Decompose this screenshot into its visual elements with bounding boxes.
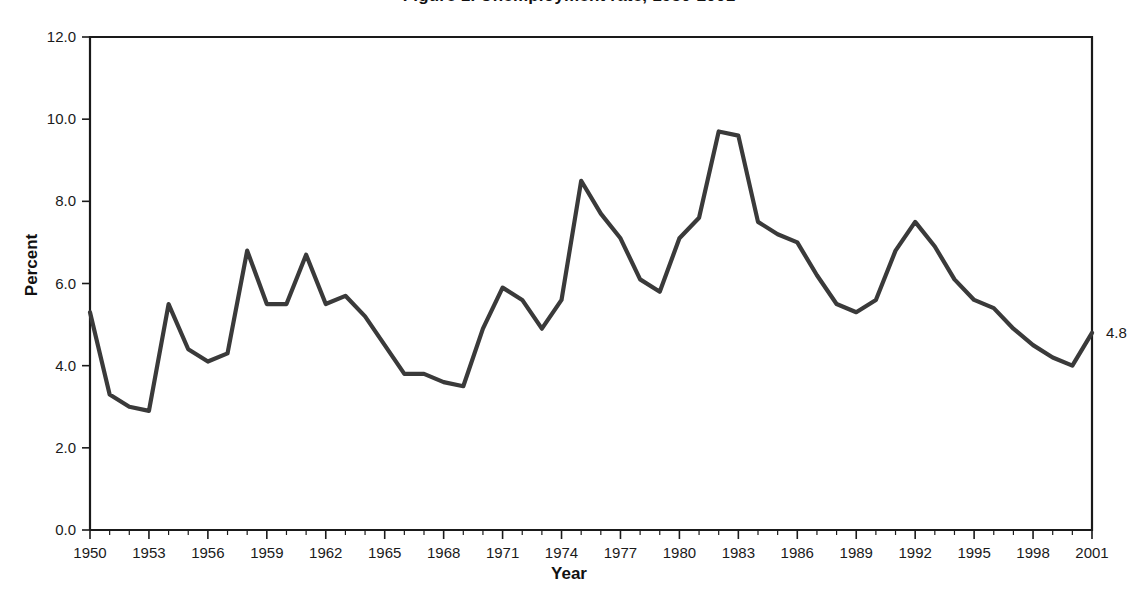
x-tick-label: 1974 — [545, 544, 578, 561]
y-axis-ticks: 0.02.04.06.08.010.012.0 — [47, 28, 90, 538]
endpoint-annotation: 4.8 — [1106, 324, 1127, 341]
x-tick-label: 2001 — [1075, 544, 1108, 561]
x-tick-label: 1959 — [250, 544, 283, 561]
y-tick-label: 12.0 — [47, 28, 76, 45]
x-tick-label: 1971 — [486, 544, 519, 561]
x-tick-label: 1977 — [604, 544, 637, 561]
x-tick-label: 1998 — [1016, 544, 1049, 561]
y-tick-label: 4.0 — [55, 357, 76, 374]
y-tick-label: 0.0 — [55, 521, 76, 538]
x-tick-label: 1965 — [368, 544, 401, 561]
x-tick-label: 1950 — [73, 544, 106, 561]
unemployment-rate-line — [90, 131, 1092, 410]
x-tick-label: 1995 — [957, 544, 990, 561]
x-tick-label: 1962 — [309, 544, 342, 561]
y-tick-label: 6.0 — [55, 275, 76, 292]
x-tick-label: 1968 — [427, 544, 460, 561]
data-series-unemployment-rate — [90, 131, 1092, 410]
y-tick-label: 10.0 — [47, 110, 76, 127]
x-tick-label: 1956 — [191, 544, 224, 561]
annotation-value: 4.8 — [1106, 324, 1127, 341]
chart-figure: Figure 1. Unemployment rate, 1950-2001 P… — [0, 0, 1138, 600]
line-chart-plot: 0.02.04.06.08.010.012.0 1950195319561959… — [0, 0, 1138, 600]
x-tick-label: 1986 — [781, 544, 814, 561]
x-tick-label: 1992 — [898, 544, 931, 561]
y-tick-label: 8.0 — [55, 192, 76, 209]
x-axis-ticks: 1950195319561959196219651968197119741977… — [73, 530, 1108, 561]
x-tick-label: 1983 — [722, 544, 755, 561]
x-tick-label: 1953 — [132, 544, 165, 561]
x-tick-label: 1980 — [663, 544, 696, 561]
y-tick-label: 2.0 — [55, 439, 76, 456]
x-tick-label: 1989 — [840, 544, 873, 561]
